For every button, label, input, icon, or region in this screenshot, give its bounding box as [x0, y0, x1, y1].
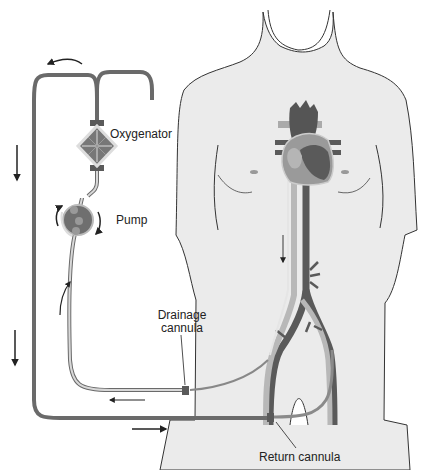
arrow-top-curved	[48, 60, 82, 65]
return-cannula-label: Return cannula	[259, 451, 340, 464]
drainage-cannula-leader	[181, 335, 185, 385]
pump	[56, 205, 100, 236]
return-cannula-connector	[267, 413, 274, 422]
ecmo-diagram	[0, 0, 426, 470]
nipple-right	[341, 170, 349, 174]
nipple-left	[250, 170, 258, 174]
drainage-cannula-label: Drainage cannula	[150, 309, 214, 335]
return-tube-top	[97, 72, 152, 120]
drainage-cannula-label-line2: cannula	[150, 322, 214, 335]
drainage-cannula-connector	[182, 386, 189, 395]
pump-rotation-arrow-right	[96, 212, 100, 234]
pump-label: Pump	[116, 214, 147, 227]
oxygenator-label: Oxygenator	[110, 128, 172, 141]
